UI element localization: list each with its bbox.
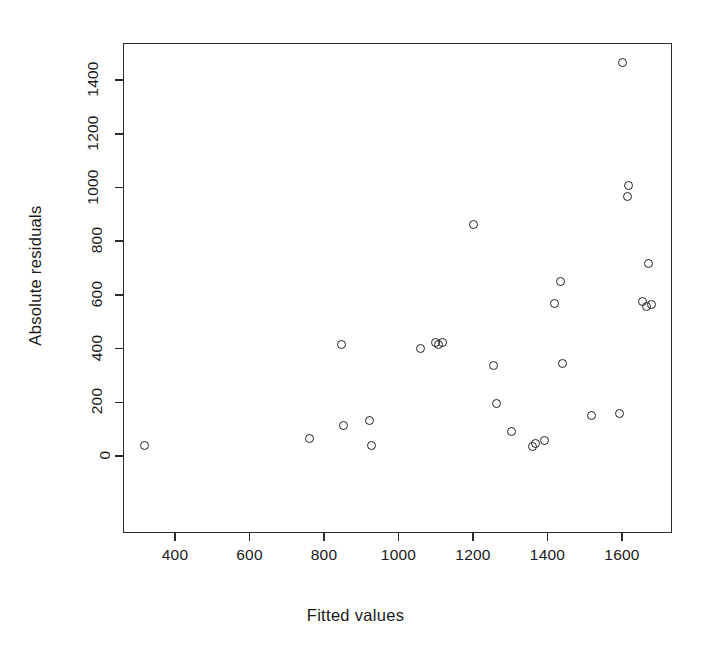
x-axis-tick-label: 800 bbox=[289, 546, 359, 564]
x-axis-tick bbox=[249, 533, 251, 541]
y-axis-tick bbox=[115, 187, 123, 189]
x-axis-tick bbox=[323, 533, 325, 541]
x-axis-label: Fitted values bbox=[0, 606, 711, 625]
y-axis-tick-label: 1400 bbox=[0, 70, 110, 88]
x-axis-tick-label: 1200 bbox=[438, 546, 508, 564]
y-axis-tick-label: 1200 bbox=[0, 124, 110, 142]
y-axis-tick bbox=[115, 133, 123, 135]
y-axis-tick-label: 800 bbox=[0, 231, 110, 249]
x-axis-tick-label: 1400 bbox=[513, 546, 583, 564]
x-axis-tick bbox=[547, 533, 549, 541]
x-axis-tick bbox=[398, 533, 400, 541]
y-axis-tick-label: 600 bbox=[0, 285, 110, 303]
plot-area-frame bbox=[123, 43, 672, 533]
y-axis-tick bbox=[115, 455, 123, 457]
y-axis-tick bbox=[115, 294, 123, 296]
x-axis-tick-label: 400 bbox=[140, 546, 210, 564]
x-axis-tick-label: 1000 bbox=[364, 546, 434, 564]
y-axis-tick bbox=[115, 79, 123, 81]
y-axis-tick-label: 400 bbox=[0, 339, 110, 357]
scatter-plot-figure: 4006008001000120014001600 02004006008001… bbox=[0, 0, 711, 651]
y-axis-tick bbox=[115, 348, 123, 350]
x-axis-tick-label: 600 bbox=[215, 546, 285, 564]
y-axis-tick-label: 200 bbox=[0, 392, 110, 410]
y-axis-tick-label: 1000 bbox=[0, 178, 110, 196]
x-axis-tick bbox=[621, 533, 623, 541]
x-axis-tick bbox=[472, 533, 474, 541]
y-axis-tick bbox=[115, 402, 123, 404]
x-axis-tick bbox=[174, 533, 176, 541]
x-axis-tick-label: 1600 bbox=[587, 546, 657, 564]
y-axis-tick-label: 0 bbox=[0, 446, 110, 464]
y-axis-tick bbox=[115, 240, 123, 242]
y-axis-label: Absolute residuals bbox=[26, 96, 45, 456]
